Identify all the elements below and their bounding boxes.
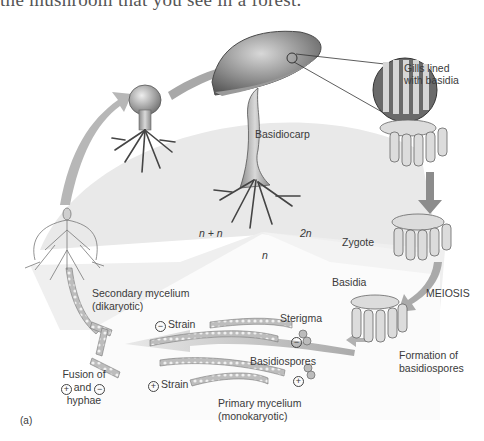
label-gills-line1: Gills lined <box>404 62 450 74</box>
spore-minus-marker: − <box>291 334 304 348</box>
panel-marker: (a) <box>20 415 32 427</box>
label-sterigma: Sterigma <box>280 312 322 324</box>
ploidy-haploid: n <box>262 249 268 261</box>
label-fusion-line3: hyphae <box>54 394 114 406</box>
ploidy-dikaryon: n + n <box>199 227 223 239</box>
ploidy-diploid: 2n <box>300 227 312 239</box>
label-formation-line1: Formation of <box>399 349 458 361</box>
label-formation-line2: basidiospores <box>399 362 464 374</box>
label-plus-strain: +Strain <box>148 378 188 392</box>
spore-plus-marker: + <box>293 373 306 387</box>
plus-sign-icon: + <box>293 376 304 387</box>
label-basidia: Basidia <box>332 276 366 288</box>
minus-sign-icon: − <box>291 337 302 348</box>
label-basidiocarp: Basidiocarp <box>255 128 310 140</box>
label-basidiospores: Basidiospores <box>250 355 316 367</box>
label-primary-line1: Primary mycelium <box>218 397 301 409</box>
label-fusion-line2: +and − <box>54 381 114 395</box>
plus-sign-icon: + <box>148 381 159 392</box>
label-meiosis: MEIOSIS <box>426 287 470 299</box>
label-gills-line2: with basidia <box>404 74 459 86</box>
minus-sign-icon: − <box>155 321 166 332</box>
label-primary-line2: (monokaryotic) <box>218 410 287 422</box>
label-secondary-line1: Secondary mycelium <box>92 287 189 299</box>
label-zygote: Zygote <box>342 236 374 248</box>
label-minus-strain: −Strain <box>155 318 195 332</box>
label-secondary-line2: (dikaryotic) <box>92 300 143 312</box>
label-fusion-line1: Fusion of <box>54 368 114 380</box>
